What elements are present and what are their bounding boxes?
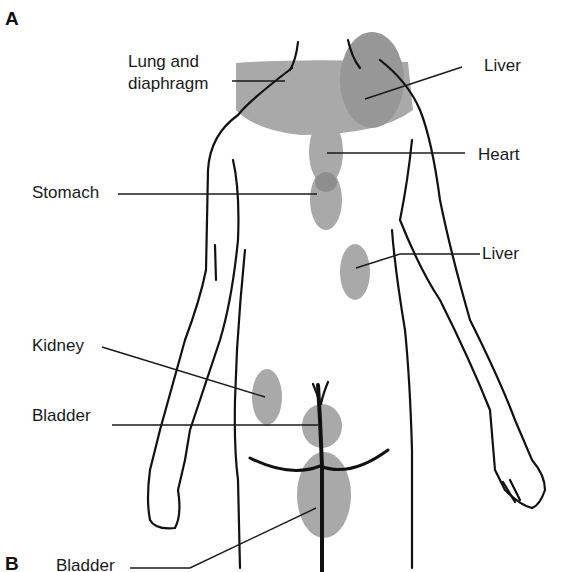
leader-bladder-b xyxy=(130,508,316,568)
body-outline-illustration xyxy=(0,0,569,572)
label-liver-top: Liver xyxy=(484,56,521,76)
zone-kidney xyxy=(252,369,282,425)
referred-pain-diagram: A B Lung and diaphragm Liver Heart Stoma… xyxy=(0,0,569,572)
label-kidney: Kidney xyxy=(32,336,84,356)
label-lung-line2: diaphragm xyxy=(128,74,208,94)
panel-label-b: B xyxy=(5,553,19,572)
zone-heart-stomach-overlap xyxy=(315,172,337,192)
leader-kidney xyxy=(102,347,265,397)
leader-lines xyxy=(102,67,480,568)
label-heart: Heart xyxy=(478,145,520,165)
panel-label-a: A xyxy=(5,8,19,30)
label-lung-line1: Lung and xyxy=(128,52,199,72)
label-bladder-b: Bladder xyxy=(56,556,115,572)
zone-liver-flank xyxy=(340,244,370,300)
label-bladder-a: Bladder xyxy=(32,406,91,426)
label-stomach: Stomach xyxy=(32,183,99,203)
label-liver-mid: Liver xyxy=(482,244,519,264)
